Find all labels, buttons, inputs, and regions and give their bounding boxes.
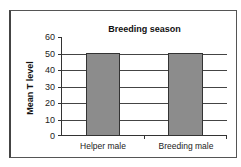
x-category-label: Helper male [68, 141, 138, 151]
y-tick-label: 60 [35, 32, 55, 42]
y-tick-label: 40 [35, 65, 55, 75]
y-tick [58, 103, 61, 104]
y-tick-label: 10 [35, 115, 55, 125]
y-tick-label: 50 [35, 49, 55, 59]
x-tick [226, 136, 227, 139]
y-axis-label: Mean T level [25, 61, 35, 115]
y-tick [58, 87, 61, 88]
bar-breeding-male [168, 53, 203, 136]
y-tick [58, 70, 61, 71]
y-tick [58, 135, 61, 136]
bar-helper-male [86, 53, 120, 136]
y-tick [58, 54, 61, 55]
plot-area: 60 50 40 30 20 10 0 Helper male Breeding… [61, 37, 227, 136]
cropped-text-fragment [146, 0, 156, 2]
x-category-label: Breeding male [151, 141, 221, 151]
x-tick [144, 136, 145, 139]
y-tick-label: 30 [35, 82, 55, 92]
y-tick [58, 37, 61, 38]
y-tick [58, 120, 61, 121]
y-tick-label: 0 [35, 131, 55, 141]
y-tick-label: 20 [35, 98, 55, 108]
y-axis [61, 37, 62, 136]
